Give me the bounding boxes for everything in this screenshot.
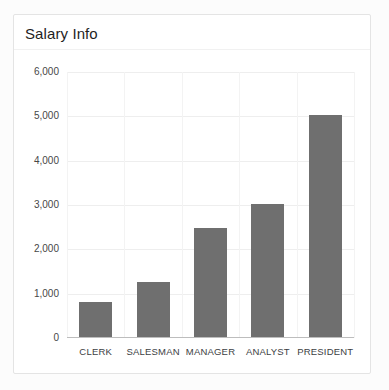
y-axis: 01,0002,0003,0004,0005,0006,000 bbox=[14, 72, 59, 338]
x-axis-label: CLERK bbox=[67, 345, 124, 359]
chart-card: Salary Info 01,0002,0003,0004,0005,0006,… bbox=[13, 14, 371, 374]
x-axis-label: ANALYST bbox=[239, 345, 296, 359]
v-gridline bbox=[182, 72, 183, 338]
x-axis-line bbox=[67, 337, 354, 338]
bar-clerk bbox=[79, 302, 112, 337]
bar-president bbox=[309, 115, 342, 337]
v-gridline bbox=[239, 72, 240, 338]
y-axis-tick-label: 4,000 bbox=[14, 155, 59, 167]
y-axis-tick-label: 6,000 bbox=[14, 66, 59, 78]
y-axis-tick-label: 0 bbox=[14, 332, 59, 344]
bar-analyst bbox=[251, 204, 284, 337]
x-axis-label: PRESIDENT bbox=[297, 345, 354, 359]
v-gridline bbox=[67, 72, 68, 338]
chart-title: Salary Info bbox=[25, 25, 98, 42]
v-gridline bbox=[124, 72, 125, 338]
x-axis-label: SALESMAN bbox=[124, 345, 181, 359]
v-gridline bbox=[354, 72, 355, 338]
x-axis-label: MANAGER bbox=[182, 345, 239, 359]
v-gridline bbox=[297, 72, 298, 338]
bar-salesman bbox=[137, 282, 170, 337]
y-axis-tick-label: 1,000 bbox=[14, 288, 59, 300]
plot-area bbox=[67, 72, 354, 338]
bar-manager bbox=[194, 228, 227, 337]
y-axis-tick-label: 2,000 bbox=[14, 243, 59, 255]
y-axis-tick-label: 3,000 bbox=[14, 199, 59, 211]
x-axis: CLERKSALESMANMANAGERANALYSTPRESIDENT bbox=[67, 345, 354, 361]
h-gridline bbox=[67, 72, 354, 73]
title-divider bbox=[14, 49, 370, 50]
y-axis-tick-label: 5,000 bbox=[14, 110, 59, 122]
